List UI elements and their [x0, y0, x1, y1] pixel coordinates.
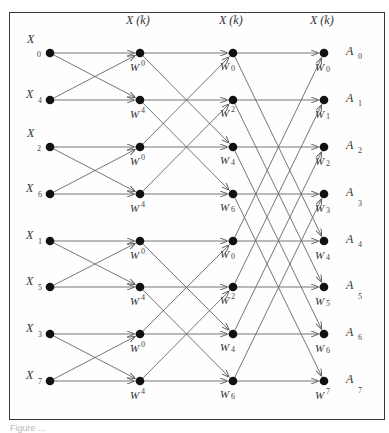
svg-text:6: 6 [231, 392, 235, 401]
node-s1-r5 [46, 283, 55, 292]
edge-cross [50, 149, 136, 194]
output-label: A7 [345, 372, 362, 395]
edge-cross [50, 241, 136, 285]
node-s4-r7 [320, 377, 329, 386]
input-label: X2 [26, 126, 41, 153]
svg-text:4: 4 [141, 106, 145, 115]
svg-text:0: 0 [141, 153, 145, 162]
svg-text:W: W [130, 342, 140, 354]
twiddle-label: W6 [220, 388, 235, 401]
twiddle-label: W4 [315, 249, 330, 262]
svg-text:0: 0 [37, 50, 41, 59]
svg-text:W: W [315, 108, 325, 120]
svg-text:2: 2 [358, 146, 362, 155]
node-s4-r2 [320, 143, 329, 152]
node-s2-r4 [136, 237, 145, 246]
edge-cross [140, 244, 230, 334]
edge-cross [233, 194, 322, 377]
twiddle-label: W4 [130, 387, 145, 401]
node-s1-r3 [46, 190, 55, 199]
node-s1-r0 [46, 49, 55, 58]
edge-cross [233, 198, 322, 381]
svg-text:2: 2 [326, 159, 330, 168]
node-s2-r3 [136, 190, 145, 199]
stage-header: X (k) [218, 13, 243, 27]
svg-text:1: 1 [326, 112, 330, 121]
node-s3-r6 [229, 330, 238, 339]
svg-text:5: 5 [38, 283, 42, 292]
node-s1-r2 [46, 143, 55, 152]
twiddle-label: W0 [220, 60, 235, 73]
svg-text:W: W [130, 155, 140, 167]
node-s4-r3 [320, 190, 329, 199]
edge-cross [140, 56, 230, 147]
svg-text:4: 4 [231, 158, 235, 167]
svg-text:2: 2 [231, 105, 235, 114]
svg-text:W: W [220, 154, 230, 166]
edge-cross [140, 241, 230, 331]
edge-cross [233, 53, 322, 237]
twiddle-label: W0 [130, 59, 145, 73]
svg-text:4: 4 [38, 96, 42, 105]
svg-text:X: X [25, 321, 34, 335]
svg-text:1: 1 [358, 99, 362, 108]
svg-text:4: 4 [141, 293, 145, 302]
twiddle-label: W5 [315, 295, 330, 308]
input-label: X6 [25, 181, 42, 199]
output-label: A3 [345, 185, 362, 208]
stage-header: X (k) [309, 13, 334, 27]
svg-text:4: 4 [326, 253, 330, 262]
input-label: X7 [25, 368, 42, 386]
node-s3-r0 [229, 49, 238, 58]
twiddle-label: W1 [315, 108, 330, 121]
node-s2-r2 [136, 143, 145, 152]
input-label: X4 [25, 87, 42, 105]
node-s2-r5 [136, 283, 145, 292]
twiddle-label: W2 [220, 105, 235, 119]
svg-text:2: 2 [37, 144, 41, 153]
node-s3-r3 [229, 190, 238, 199]
svg-text:X: X [26, 126, 35, 140]
svg-text:4: 4 [141, 387, 145, 396]
svg-text:W: W [130, 202, 140, 214]
svg-text:1: 1 [38, 237, 42, 246]
svg-text:7: 7 [358, 386, 362, 395]
node-s1-r1 [46, 96, 55, 105]
svg-text:6: 6 [38, 190, 42, 199]
svg-text:W: W [220, 107, 230, 119]
svg-text:W: W [220, 388, 230, 400]
svg-text:X: X [26, 32, 35, 46]
svg-text:A: A [345, 44, 354, 58]
edge-cross [140, 53, 230, 144]
node-s3-r2 [229, 143, 238, 152]
edge-cross [140, 287, 230, 378]
svg-text:0: 0 [141, 59, 145, 68]
edge-cross [140, 290, 230, 381]
twiddle-label: W3 [315, 202, 330, 215]
svg-text:A: A [345, 325, 354, 339]
svg-text:0: 0 [231, 252, 235, 261]
svg-text:A: A [345, 185, 354, 199]
twiddle-label: W4 [130, 106, 145, 120]
svg-text:6: 6 [326, 346, 330, 355]
edge-cross [233, 100, 322, 283]
node-s1-r7 [46, 377, 55, 386]
svg-text:0: 0 [231, 64, 235, 73]
edge-cross [233, 104, 322, 287]
svg-text:X: X [25, 274, 34, 288]
node-s4-r4 [320, 237, 329, 246]
svg-text:A: A [345, 138, 354, 152]
svg-text:4: 4 [358, 240, 362, 249]
twiddle-label: W0 [130, 153, 145, 167]
node-s3-r1 [229, 96, 238, 105]
svg-text:X: X [25, 87, 34, 101]
twiddle-label: W0 [130, 247, 145, 261]
output-label: A2 [345, 138, 362, 155]
svg-text:4: 4 [141, 200, 145, 209]
twiddle-label: W0 [315, 61, 330, 74]
svg-text:4: 4 [231, 345, 235, 354]
svg-text:3: 3 [358, 199, 362, 208]
twiddle-label: W0 [220, 248, 235, 261]
twiddle-label: W2 [315, 155, 330, 168]
edge-cross [50, 243, 136, 287]
